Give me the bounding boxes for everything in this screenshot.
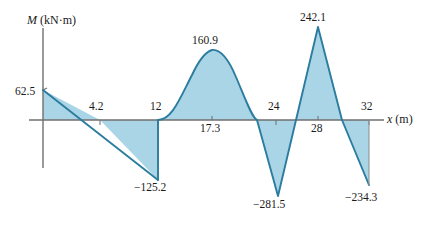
y-axis-title-unit: (kN·m): [37, 13, 76, 27]
x-axis-title: x (m): [387, 113, 413, 125]
y-axis-title-symbol: M: [27, 13, 37, 27]
value-label-neg-125-2: −125.2: [134, 182, 166, 194]
bending-moment-diagram-figure: M (kN·m) x (m) 62.5 4.2 12 −125.2 160.9 …: [0, 0, 429, 244]
area-segment-5: [296, 27, 342, 120]
x-tick-label-4-2: 4.2: [89, 101, 103, 113]
area-segment-2: [100, 120, 158, 180]
value-label-neg-234-3: −234.3: [345, 192, 377, 204]
x-tick-label-32: 32: [361, 101, 373, 113]
value-label-62-5: 62.5: [15, 86, 35, 98]
x-axis-title-unit: (m): [392, 112, 412, 126]
value-label-neg-281-5: −281.5: [253, 199, 285, 211]
x-tick-label-17-3: 17.3: [200, 123, 220, 135]
x-tick-label-28: 28: [311, 123, 323, 135]
value-label-160-9: 160.9: [192, 35, 218, 47]
area-segment-4: [257, 120, 296, 196]
value-label-242-1: 242.1: [300, 12, 326, 24]
x-tick-label-12: 12: [150, 101, 162, 113]
y-axis-title: M (kN·m): [27, 14, 76, 26]
x-tick-label-24: 24: [268, 101, 280, 113]
